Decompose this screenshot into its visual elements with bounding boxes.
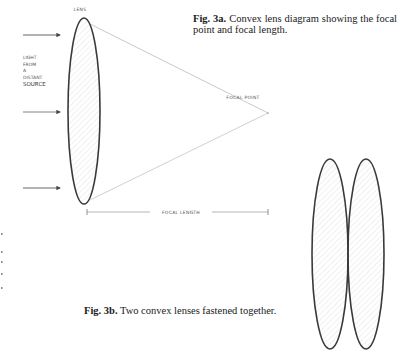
source-line-5: SOURCE (23, 81, 46, 88)
fig-3a-caption: Fig. 3a. Convex lens diagram showing the… (193, 13, 397, 35)
focal-point-label: FOCAL POINT (226, 95, 259, 100)
focal-length-label: FOCAL LENGTH (162, 210, 200, 215)
fastened-lens-right (348, 159, 384, 349)
light-source-label: LIGHT FROM A DISTANT SOURCE (23, 55, 46, 88)
focal-point-marker (267, 112, 269, 114)
fig-3b-caption-label: Fig. 3b. (84, 305, 118, 316)
convex-lens (68, 18, 100, 204)
fig-3a-caption-label: Fig. 3a. (193, 13, 226, 24)
margin-marks (1, 233, 3, 289)
converging-ray-bottom (90, 113, 268, 200)
fig-3b-caption: Fig. 3b. Two convex lenses fastened toge… (84, 305, 302, 316)
fastened-lens-left (312, 159, 348, 349)
fig-3b-caption-text: Two convex lenses fastened together. (120, 305, 276, 316)
lens-diagram-canvas: LENS FOCAL POINT FOCAL LENGTH (0, 0, 404, 353)
lens-label: LENS (74, 7, 87, 12)
